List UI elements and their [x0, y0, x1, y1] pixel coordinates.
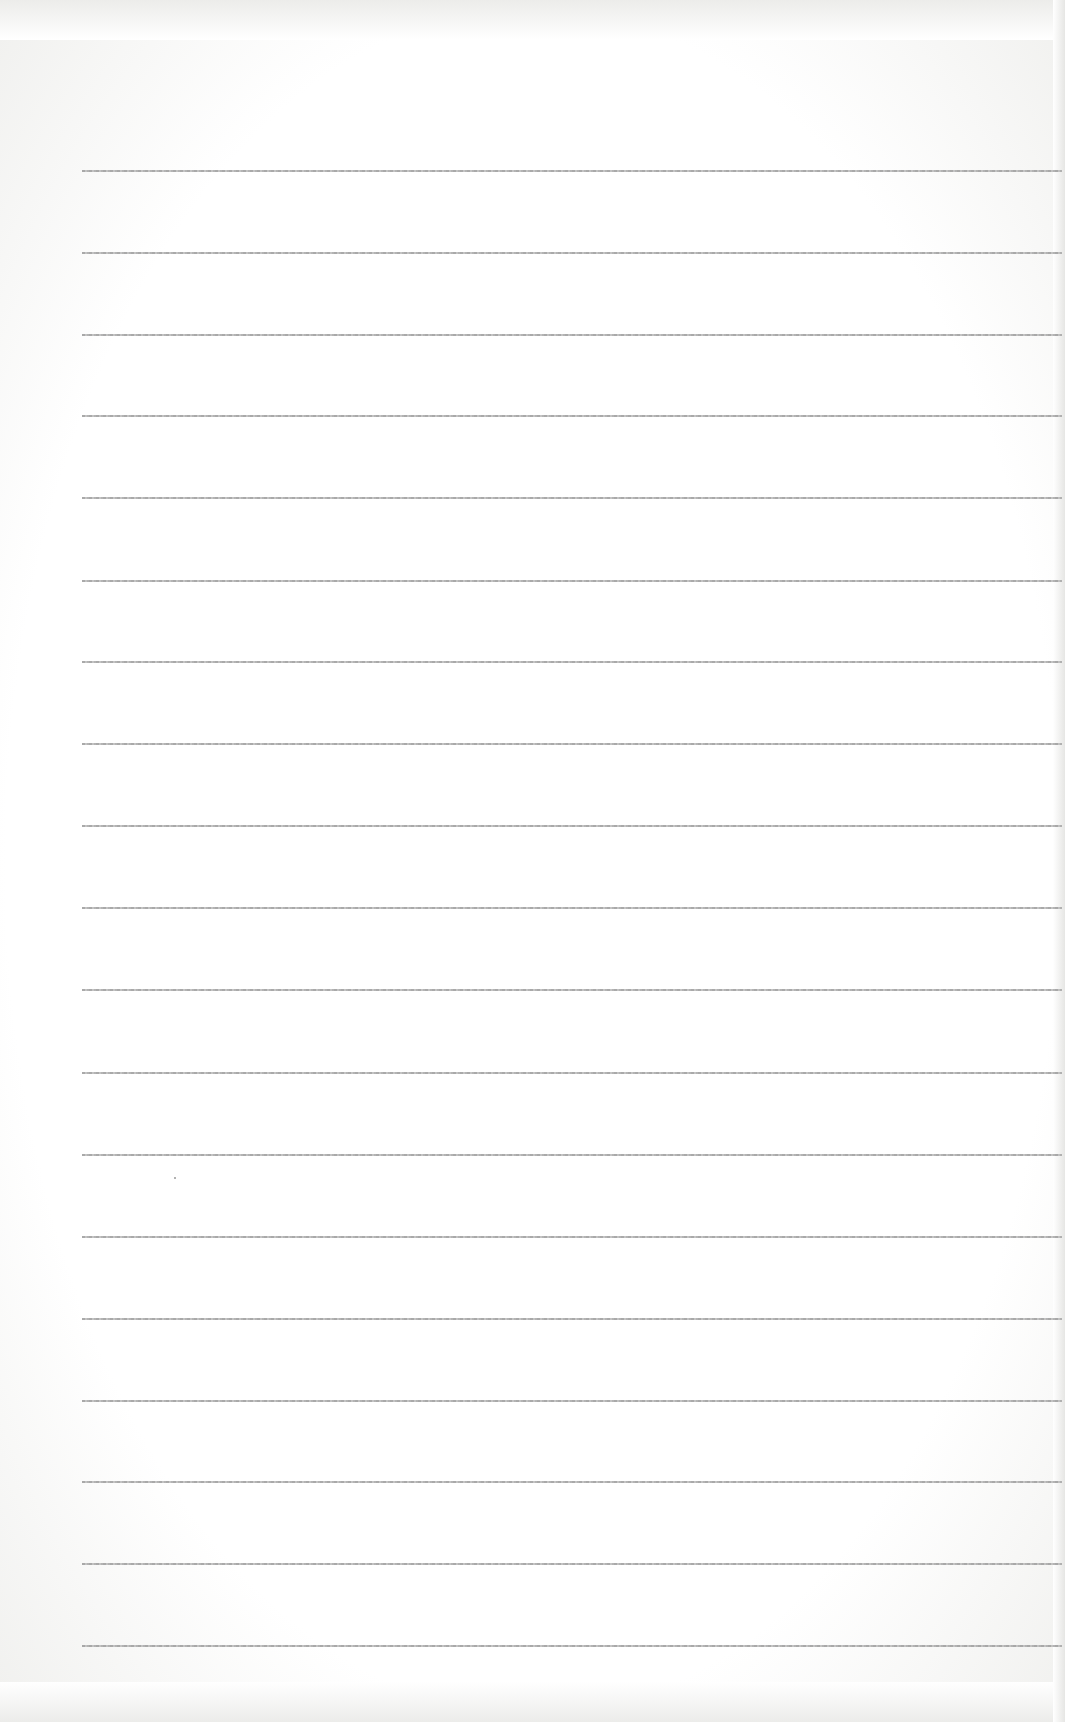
ruled-line [82, 825, 1062, 827]
ruled-line [82, 1236, 1062, 1238]
ruled-line [82, 1645, 1062, 1647]
ruled-line [82, 252, 1062, 254]
page-bottom-shadow [0, 1682, 1065, 1722]
ruled-line [82, 334, 1062, 336]
ruled-line [82, 1481, 1062, 1483]
ruled-line [82, 743, 1062, 745]
ruled-line [82, 497, 1062, 499]
page-right-edge [1053, 0, 1065, 1722]
ruled-line [82, 1400, 1062, 1402]
ruled-line [82, 1318, 1062, 1320]
ruled-line [82, 170, 1062, 172]
ruled-line [82, 1072, 1062, 1074]
paper-speck [174, 1177, 176, 1179]
ruled-line [82, 1154, 1062, 1156]
ruled-line [82, 415, 1062, 417]
page-top-shadow [0, 0, 1065, 40]
ruled-line [82, 661, 1062, 663]
ruled-line [82, 907, 1062, 909]
lined-paper-page [0, 0, 1065, 1722]
ruled-line [82, 1563, 1062, 1565]
ruled-line [82, 989, 1062, 991]
ruled-line [82, 580, 1062, 582]
